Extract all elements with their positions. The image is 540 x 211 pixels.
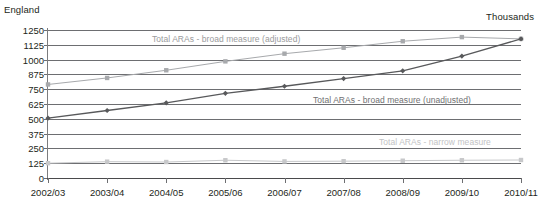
chart-container: England Thousands 0125250375500625750875… bbox=[0, 0, 540, 211]
y-tick-label: 625 bbox=[0, 99, 44, 110]
x-tick-label: 2008/09 bbox=[386, 187, 420, 198]
y-tick-label: 375 bbox=[0, 128, 44, 139]
x-tick-label: 2007/08 bbox=[326, 187, 360, 198]
x-tick-mark bbox=[48, 178, 49, 183]
gridline bbox=[48, 30, 521, 31]
y-tick-label: 1000 bbox=[0, 54, 44, 65]
gridline bbox=[48, 89, 521, 90]
x-tick-label: 2006/07 bbox=[267, 187, 301, 198]
x-tick-label: 2005/06 bbox=[208, 187, 242, 198]
gridline bbox=[48, 119, 521, 120]
x-tick-mark bbox=[521, 178, 522, 183]
y-tick-label: 1125 bbox=[0, 39, 44, 50]
y-tick-label: 875 bbox=[0, 69, 44, 80]
x-tick-mark bbox=[285, 178, 286, 183]
x-tick-label: 2002/03 bbox=[31, 187, 65, 198]
y-tick-label: 1250 bbox=[0, 25, 44, 36]
y-tick-label: 750 bbox=[0, 84, 44, 95]
x-tick-mark bbox=[107, 178, 108, 183]
series-label-1: Total ARAs - broad measure (adjusted) bbox=[152, 34, 300, 44]
y-tick-label: 250 bbox=[0, 143, 44, 154]
gridline bbox=[48, 45, 521, 46]
x-tick-mark bbox=[166, 178, 167, 183]
x-tick-label: 2004/05 bbox=[149, 187, 183, 198]
series-label-2: Total ARAs - broad measure (unadjusted) bbox=[313, 95, 471, 105]
x-tick-mark bbox=[344, 178, 345, 183]
series-label-3: Total ARAs - narrow measure bbox=[379, 137, 491, 147]
gridline bbox=[48, 60, 521, 61]
y-tick-label: 500 bbox=[0, 113, 44, 124]
gridline bbox=[48, 148, 521, 149]
gridline bbox=[48, 134, 521, 135]
x-tick-mark bbox=[462, 178, 463, 183]
y-tick-label: 125 bbox=[0, 158, 44, 169]
x-tick-mark bbox=[403, 178, 404, 183]
gridline bbox=[48, 74, 521, 75]
gridline bbox=[48, 163, 521, 164]
x-tick-label: 2009/10 bbox=[445, 187, 479, 198]
x-tick-label: 2010/11 bbox=[504, 187, 538, 198]
x-tick-mark bbox=[225, 178, 226, 183]
y-tick-label: 0 bbox=[0, 173, 44, 184]
x-tick-label: 2003/04 bbox=[90, 187, 124, 198]
